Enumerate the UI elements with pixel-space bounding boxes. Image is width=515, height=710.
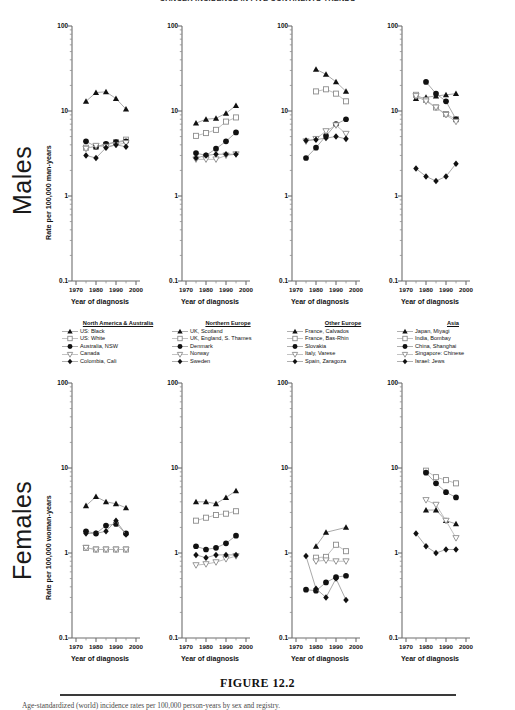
legend-entry-label: Canada bbox=[80, 350, 100, 358]
open-square-icon bbox=[172, 335, 188, 342]
x-tick-label: 1980 bbox=[85, 286, 107, 293]
legend-entry[interactable]: Spain, Zaragoza bbox=[287, 358, 399, 366]
open-down-triangle-icon bbox=[397, 351, 413, 358]
legend-entry[interactable]: Colombia, Cali bbox=[62, 358, 174, 366]
x-tick-label: 2000 bbox=[345, 286, 367, 293]
x-tick-label: 1980 bbox=[415, 286, 437, 293]
legend-entry-label: Sweden bbox=[190, 358, 210, 366]
legend-title: Northern Europe bbox=[172, 320, 284, 326]
y-tick-label: 1 bbox=[46, 549, 68, 556]
y-tick-label: 100 bbox=[156, 379, 178, 386]
legend-north-america-australia: North America & Australia US: Black US: … bbox=[62, 320, 174, 365]
x-tick-label: 1990 bbox=[435, 643, 457, 650]
filled-circle-icon bbox=[172, 343, 188, 350]
x-tick-label: 1990 bbox=[105, 643, 127, 650]
x-tick-label: 1990 bbox=[105, 286, 127, 293]
y-tick-label: 100 bbox=[266, 22, 288, 29]
panel-females-asia: 1001010.11970198019902000Year of diagnos… bbox=[376, 375, 484, 670]
legend-entry-label: Spain, Zaragoza bbox=[305, 358, 346, 366]
legend-entry-label: Norway bbox=[190, 350, 209, 358]
figure-caption: FIGURE 12.2 bbox=[0, 676, 515, 691]
legend-northern-europe: Northern Europe UK, Scotland UK, England… bbox=[172, 320, 284, 365]
panel-males-northern-europe: 1001010.11970198019902000Year of diagnos… bbox=[156, 18, 264, 313]
filled-triangle-icon bbox=[172, 328, 188, 335]
y-tick-label: 0.1 bbox=[266, 277, 288, 284]
y-tick-label: 0.1 bbox=[46, 277, 68, 284]
y-tick-label: 100 bbox=[376, 379, 398, 386]
x-tick-label: 1990 bbox=[435, 286, 457, 293]
x-tick-label: 1970 bbox=[285, 286, 307, 293]
y-tick-label: 0.1 bbox=[266, 634, 288, 641]
legend-entry[interactable]: US: White bbox=[62, 335, 174, 343]
plot-males-other-europe bbox=[266, 18, 374, 303]
x-tick-label: 2000 bbox=[345, 643, 367, 650]
x-axis-title: Year of diagnosis bbox=[266, 655, 374, 662]
filled-circle-icon bbox=[62, 343, 78, 350]
legend-entry[interactable]: Sweden bbox=[172, 358, 284, 366]
y-tick-label: 1 bbox=[46, 192, 68, 199]
legend-entry-label: US: White bbox=[80, 335, 105, 343]
legend-entry[interactable]: France, Calvados bbox=[287, 328, 399, 336]
open-square-icon bbox=[287, 335, 303, 342]
x-tick-label: 1990 bbox=[215, 643, 237, 650]
legend-entry[interactable]: Australia, NSW bbox=[62, 343, 174, 351]
filled-diamond-icon bbox=[287, 358, 303, 365]
x-axis-title: Year of diagnosis bbox=[156, 655, 264, 662]
x-tick-label: 2000 bbox=[235, 643, 257, 650]
legend-asia: Asia Japan, Miyagi India, Bombay China, … bbox=[397, 320, 509, 365]
legend-entry[interactable]: Norway bbox=[172, 350, 284, 358]
x-tick-label: 2000 bbox=[235, 286, 257, 293]
y-tick-label: 100 bbox=[46, 379, 68, 386]
plot-males-north-america-australia bbox=[46, 18, 154, 303]
legend-entry[interactable]: Singapore: Chinese bbox=[397, 350, 509, 358]
legend-entry-label: Israel: Jews bbox=[415, 358, 445, 366]
x-tick-label: 1970 bbox=[65, 643, 87, 650]
open-square-icon bbox=[397, 335, 413, 342]
filled-diamond-icon bbox=[397, 358, 413, 365]
legend-entry[interactable]: US: Black bbox=[62, 328, 174, 336]
legend-entry[interactable]: Israel: Jews bbox=[397, 358, 509, 366]
x-tick-label: 1970 bbox=[175, 286, 197, 293]
x-tick-label: 2000 bbox=[125, 643, 147, 650]
legend-entry[interactable]: Denmark bbox=[172, 343, 284, 351]
plot-females-asia bbox=[376, 375, 484, 660]
legend-entry-label: India, Bombay bbox=[415, 335, 451, 343]
legend-entry-label: China, Shanghai bbox=[415, 343, 456, 351]
legend-entry[interactable]: China, Shanghai bbox=[397, 343, 509, 351]
legend-entry-label: Australia, NSW bbox=[80, 343, 118, 351]
x-axis-title: Year of diagnosis bbox=[266, 298, 374, 305]
x-tick-label: 2000 bbox=[455, 286, 477, 293]
caption-rule bbox=[60, 694, 456, 696]
legend-entry[interactable]: Japan, Miyagi bbox=[397, 328, 509, 336]
y-tick-label: 10 bbox=[46, 464, 68, 471]
y-tick-label: 1 bbox=[266, 192, 288, 199]
x-tick-label: 1990 bbox=[325, 643, 347, 650]
x-axis-title: Year of diagnosis bbox=[46, 655, 154, 662]
legend-title: North America & Australia bbox=[62, 320, 174, 326]
legend-title: Other Europe bbox=[287, 320, 399, 326]
row-label-females: Females bbox=[8, 481, 37, 580]
y-tick-label: 0.1 bbox=[376, 634, 398, 641]
legend-entry[interactable]: France, Bas-Rhin bbox=[287, 335, 399, 343]
y-tick-label: 1 bbox=[156, 549, 178, 556]
legend-entry[interactable]: Italy, Varese bbox=[287, 350, 399, 358]
legend-entry-label: UK, Scotland bbox=[190, 328, 223, 336]
x-tick-label: 1990 bbox=[325, 286, 347, 293]
y-tick-label: 1 bbox=[156, 192, 178, 199]
legend-entry[interactable]: India, Bombay bbox=[397, 335, 509, 343]
legend-entry[interactable]: Slovakia bbox=[287, 343, 399, 351]
legend-title: Asia bbox=[397, 320, 509, 326]
x-axis-title: Year of diagnosis bbox=[376, 298, 484, 305]
legend-entry-label: Colombia, Cali bbox=[80, 358, 116, 366]
x-tick-label: 2000 bbox=[125, 286, 147, 293]
x-tick-label: 1970 bbox=[395, 286, 417, 293]
x-tick-label: 1970 bbox=[65, 286, 87, 293]
x-tick-label: 1970 bbox=[175, 643, 197, 650]
legend-entry[interactable]: Canada bbox=[62, 350, 174, 358]
legend-entry-label: Italy, Varese bbox=[305, 350, 335, 358]
y-tick-label: 1 bbox=[376, 192, 398, 199]
x-tick-label: 1980 bbox=[305, 643, 327, 650]
legend-entry[interactable]: UK, England, S. Thames bbox=[172, 335, 284, 343]
y-tick-label: 0.1 bbox=[46, 634, 68, 641]
legend-entry[interactable]: UK, Scotland bbox=[172, 328, 284, 336]
